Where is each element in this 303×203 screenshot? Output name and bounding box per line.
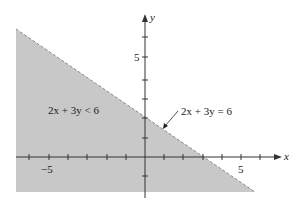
y-axis-label: y	[149, 11, 155, 23]
region-label: 2x + 3y < 6	[48, 104, 99, 116]
x-tick-label-5: 5	[238, 163, 244, 175]
inequality-graph: −5 5 5 x y 2x + 3y < 6 2x + 3y = 6	[0, 0, 303, 203]
x-tick-label-neg5: −5	[41, 163, 53, 175]
line-label: 2x + 3y = 6	[181, 105, 232, 117]
x-axis-label: x	[283, 150, 289, 162]
x-axis-arrow-icon	[274, 154, 282, 160]
y-axis-arrow-icon	[142, 14, 148, 22]
y-tick-label-5: 5	[134, 51, 140, 63]
line-label-pointer	[165, 111, 178, 126]
